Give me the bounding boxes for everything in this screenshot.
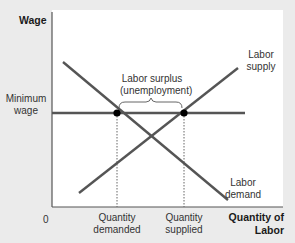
quantity-demanded-label-line2: demanded bbox=[92, 224, 142, 236]
labor-demand-label: Labor demand bbox=[222, 177, 264, 201]
quantity-supplied-label-line2: supplied bbox=[159, 224, 209, 236]
labor-surplus-label-line2: (unemployment) bbox=[120, 85, 184, 97]
labor-surplus-label: Labor surplus (unemployment) bbox=[120, 73, 184, 97]
quantity-demanded-point bbox=[113, 109, 120, 116]
surplus-brace bbox=[119, 98, 182, 108]
x-axis-label: Quantity of Labor bbox=[220, 211, 284, 237]
labor-supply-label-line1: Labor bbox=[240, 49, 282, 61]
quantity-supplied-label: Quantity supplied bbox=[159, 212, 209, 236]
quantity-supplied-label-line1: Quantity bbox=[159, 212, 209, 224]
quantity-demanded-label: Quantity demanded bbox=[92, 212, 142, 236]
labor-supply-label: Labor supply bbox=[240, 49, 282, 73]
minimum-wage-label-line2: wage bbox=[3, 105, 49, 117]
quantity-supplied-point bbox=[180, 109, 187, 116]
labor-demand-label-line1: Labor bbox=[222, 177, 264, 189]
y-axis-label: Wage bbox=[19, 14, 47, 26]
x-axis-label-line1: Quantity of bbox=[220, 211, 284, 224]
labor-supply-label-line2: supply bbox=[240, 61, 282, 73]
labor-demand-label-line2: demand bbox=[222, 189, 264, 201]
quantity-demanded-label-line1: Quantity bbox=[92, 212, 142, 224]
chart-canvas bbox=[0, 0, 295, 243]
labor-surplus-label-line1: Labor surplus bbox=[120, 73, 184, 85]
x-axis-label-line2: Labor bbox=[220, 224, 284, 237]
minimum-wage-label: Minimum wage bbox=[3, 93, 49, 117]
minimum-wage-label-line1: Minimum bbox=[3, 93, 49, 105]
origin-label: 0 bbox=[43, 214, 49, 226]
